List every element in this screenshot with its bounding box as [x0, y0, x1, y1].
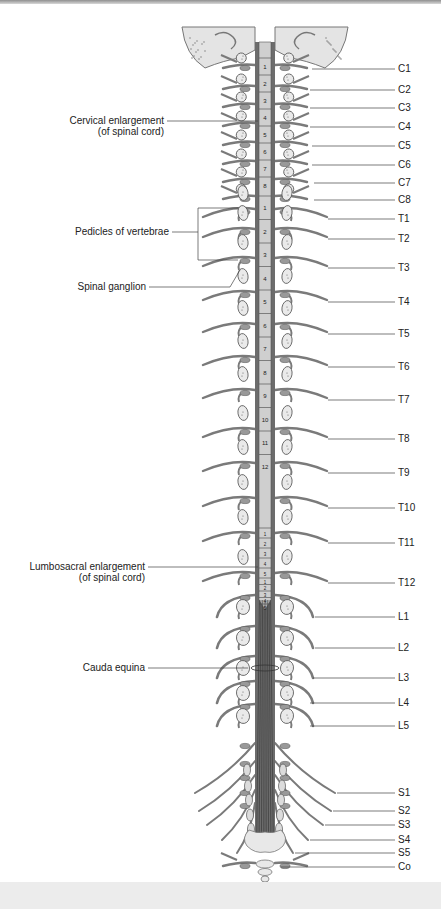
nerve-label-t1: T1 [398, 213, 410, 224]
nerve-label-l4: L4 [398, 697, 409, 708]
nerve-label-c4: C4 [398, 121, 411, 132]
nerve-label-c8: C8 [398, 194, 411, 205]
label-pedicles-of-vertebrae: Pedicles of vertebrae [75, 226, 169, 237]
nerve-label-l5: L5 [398, 720, 409, 731]
nerve-label-t6: T6 [398, 361, 410, 372]
nerve-label-c6: C6 [398, 159, 411, 170]
nerve-label-t8: T8 [398, 433, 410, 444]
nerve-label-c1: C1 [398, 63, 411, 74]
label-cauda-equina-line: Cauda equina [83, 662, 145, 673]
label-spinal-ganglion-line: Spinal ganglion [78, 281, 146, 292]
label-cauda-equina: Cauda equina [83, 662, 145, 673]
nerve-label-t2: T2 [398, 233, 410, 244]
nerve-label-l2: L2 [398, 642, 409, 653]
nerve-label-t5: T5 [398, 328, 410, 339]
svg-text:10: 10 [262, 417, 269, 423]
label-lumbosacral-enlargement: Lumbosacral enlargement(of spinal cord) [29, 561, 145, 583]
svg-text:11: 11 [262, 440, 269, 446]
nerve-label-c7: C7 [398, 177, 411, 188]
nerve-label-s5: S5 [398, 847, 410, 858]
nerve-label-t12: T12 [398, 577, 415, 588]
sacrum-coccyx-illustration [244, 830, 285, 882]
label-lumbosacral-enlargement-line: Lumbosacral enlargement [29, 561, 145, 572]
bottom-caption-bar [0, 882, 441, 909]
nerve-label-co: Co [398, 861, 411, 872]
nerve-label-t10: T10 [398, 502, 415, 513]
nerve-label-s2: S2 [398, 805, 410, 816]
label-spinal-ganglion: Spinal ganglion [78, 281, 146, 292]
label-cervical-enlargement-line: Cervical enlargement [70, 115, 165, 126]
spinal-cord-illustration: 123456781234567891011121234512345 [0, 0, 441, 909]
nerve-label-s1: S1 [398, 787, 410, 798]
nerve-label-t9: T9 [398, 467, 410, 478]
nerve-label-t7: T7 [398, 394, 410, 405]
nerve-label-l1: L1 [398, 611, 409, 622]
nerve-label-t4: T4 [398, 296, 410, 307]
nerve-label-t11: T11 [398, 537, 415, 548]
nerve-label-t3: T3 [398, 262, 410, 273]
nerve-label-c5: C5 [398, 140, 411, 151]
nerve-label-s3: S3 [398, 819, 410, 830]
nerve-label-s4: S4 [398, 834, 410, 845]
label-lumbosacral-enlargement-line: (of spinal cord) [29, 572, 145, 583]
nerve-label-c2: C2 [398, 84, 411, 95]
nerve-label-l3: L3 [398, 672, 409, 683]
label-pedicles-of-vertebrae-line: Pedicles of vertebrae [75, 226, 169, 237]
label-cervical-enlargement-line: (of spinal cord) [70, 126, 165, 137]
label-cervical-enlargement: Cervical enlargement(of spinal cord) [70, 115, 165, 137]
nerve-label-c3: C3 [398, 102, 411, 113]
svg-text:12: 12 [262, 464, 269, 470]
